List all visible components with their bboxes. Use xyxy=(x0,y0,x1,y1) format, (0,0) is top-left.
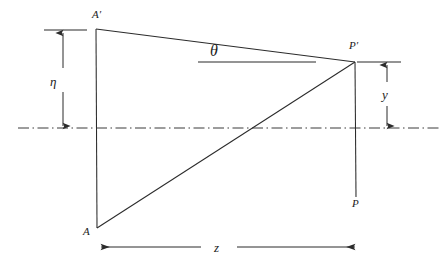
chief-ray-line xyxy=(97,62,355,228)
label-angle-theta: θ xyxy=(210,43,218,59)
label-dimension-z: z xyxy=(214,241,219,254)
object-plane-line xyxy=(96,29,97,228)
label-point-p-prime: P′ xyxy=(349,40,358,51)
label-point-p: P xyxy=(352,198,359,209)
diagram-canvas: A′ A P′ P θ η y z xyxy=(0,0,444,266)
label-dimension-y: y xyxy=(382,88,388,101)
diagram-vector-layer xyxy=(0,0,444,266)
image-plane-line xyxy=(355,62,356,197)
upper-ray-line xyxy=(96,29,355,62)
label-dimension-eta: η xyxy=(50,75,56,88)
label-point-a-prime: A′ xyxy=(92,9,101,20)
label-point-a: A xyxy=(83,226,90,237)
